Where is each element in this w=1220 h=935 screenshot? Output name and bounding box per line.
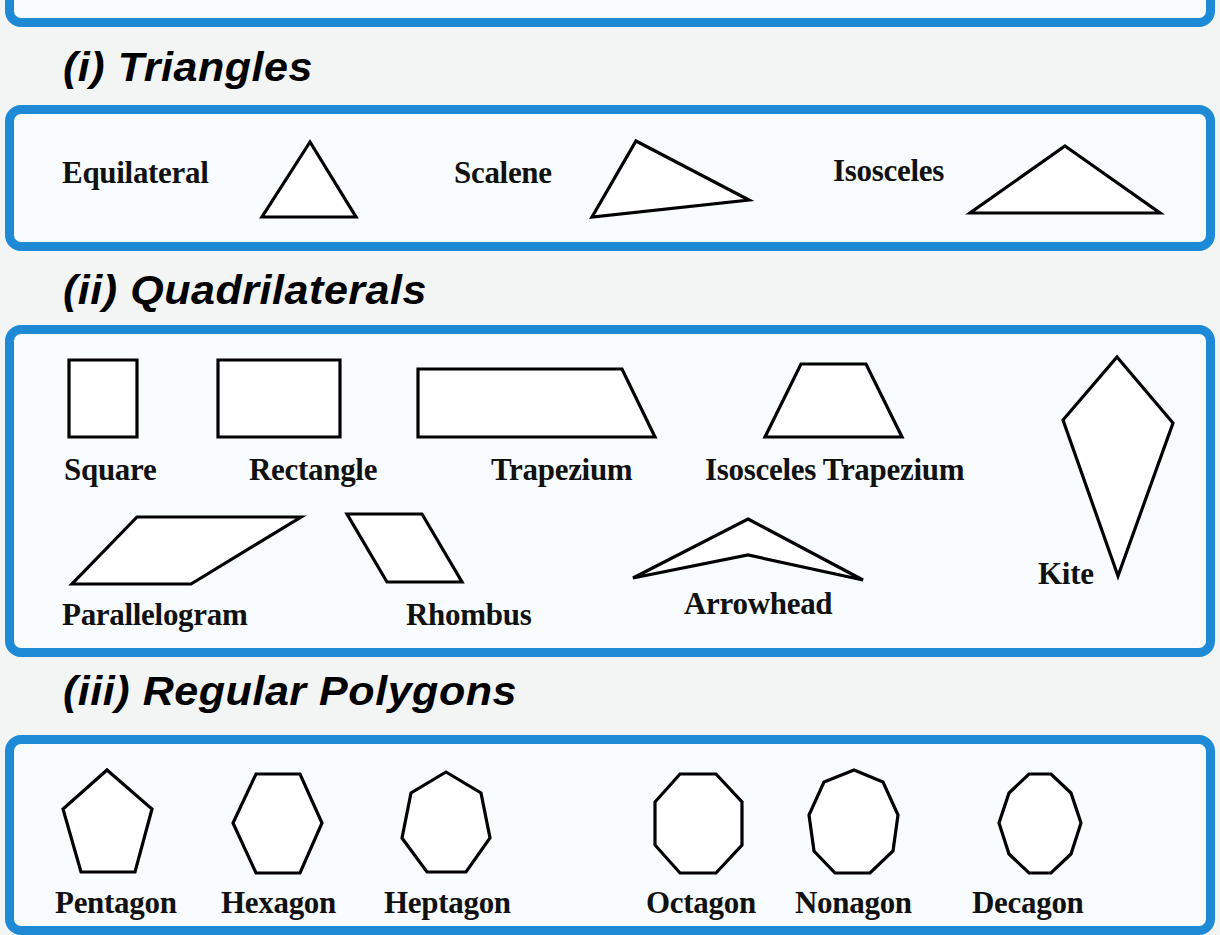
label-decagon: Decagon bbox=[972, 885, 1084, 921]
